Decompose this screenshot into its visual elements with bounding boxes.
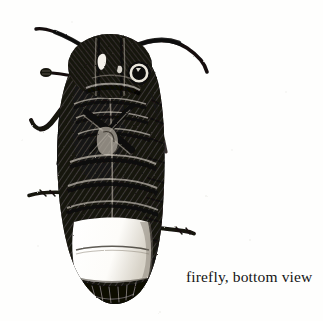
illustration-page: firefly, bottom view [0, 0, 323, 321]
palp-club [40, 68, 52, 77]
compound-eye-group [128, 62, 151, 85]
light-organ-group [72, 218, 153, 283]
figure-caption: firefly, bottom view [186, 267, 312, 286]
